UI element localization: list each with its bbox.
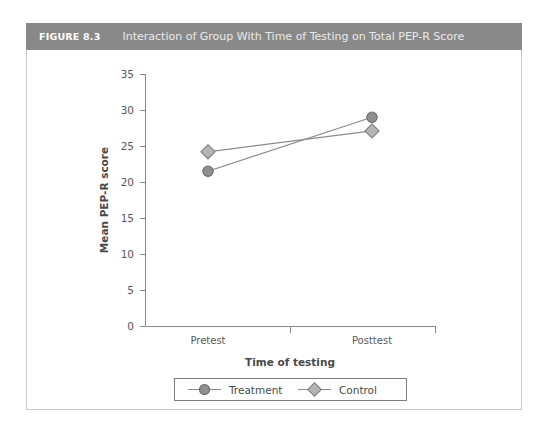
y-tick-label: 5 (127, 284, 134, 296)
y-tick-label: 35 (121, 68, 134, 80)
legend-entry-treatment[interactable]: Treatment (188, 384, 282, 396)
y-tick-labels: 35 30 25 20 15 10 5 0 (121, 68, 134, 332)
legend-marker-circle-icon (200, 385, 210, 395)
figure-title: Interaction of Group With Time of Testin… (122, 30, 464, 43)
data-point-control-posttest (365, 124, 379, 138)
chart-plot-panel: 35 30 25 20 15 10 5 0 Mean PEP-R score P… (26, 50, 522, 410)
figure-number-label: FIGURE 8.3 (39, 31, 100, 42)
legend-label-control: Control (339, 384, 377, 396)
x-axis-title: Time of testing (245, 356, 335, 368)
line-chart: 35 30 25 20 15 10 5 0 Mean PEP-R score P… (26, 50, 522, 410)
data-point-treatment-posttest (367, 112, 377, 122)
series-line-treatment (208, 117, 372, 171)
y-axis-title: Mean PEP-R score (98, 147, 110, 253)
data-point-control-pretest (201, 145, 215, 159)
y-tick-label: 15 (121, 212, 134, 224)
y-tick-label: 20 (121, 176, 134, 188)
x-tick-marks (291, 327, 436, 333)
x-tick-label-pretest: Pretest (190, 335, 225, 346)
y-tick-label: 25 (121, 140, 134, 152)
figure-header-bar: FIGURE 8.3 Interaction of Group With Tim… (26, 23, 522, 50)
series-line-control (208, 131, 372, 152)
chart-legend: Treatment Control (175, 379, 407, 401)
y-tick-marks (140, 75, 145, 327)
y-tick-label: 30 (121, 104, 134, 116)
y-tick-label: 10 (121, 248, 134, 260)
x-tick-label-posttest: Posttest (352, 335, 392, 346)
legend-label-treatment: Treatment (228, 384, 282, 396)
data-point-treatment-pretest (203, 166, 213, 176)
y-tick-label: 0 (127, 320, 134, 332)
